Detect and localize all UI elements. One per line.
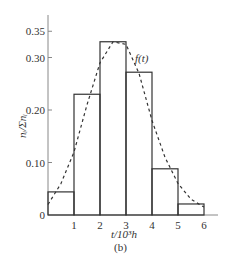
- histogram-chart: 00.100.200.300.35123456 f(t) t/10³h (b) …: [0, 0, 239, 262]
- y-tick-label: 0.20: [26, 104, 46, 116]
- x-tick-label: 1: [71, 219, 77, 231]
- y-axis-label: nᵢ/Σnᵢ: [16, 114, 28, 138]
- figure-caption: (b): [114, 241, 127, 254]
- histogram-bar: [74, 94, 100, 215]
- x-tick-label: 5: [175, 219, 181, 231]
- histogram-bar: [48, 192, 74, 215]
- x-tick-label: 6: [201, 219, 207, 231]
- y-tick-label: 0.30: [26, 52, 46, 64]
- histogram-bar: [126, 72, 152, 215]
- y-tick-label: 0.10: [26, 157, 46, 169]
- histogram-bar: [152, 169, 178, 215]
- x-tick-label: 4: [149, 219, 155, 231]
- x-tick-label: 2: [97, 219, 103, 231]
- x-axis-label: t/10³h: [111, 228, 137, 240]
- y-tick-label: 0: [40, 209, 46, 221]
- histogram-bars: [48, 42, 204, 215]
- tick-labels: 00.100.200.300.35123456: [26, 25, 208, 231]
- y-tick-label: 0.35: [26, 25, 46, 37]
- histogram-bar: [100, 42, 126, 215]
- curve-label: f(t): [135, 52, 149, 65]
- histogram-bar: [178, 204, 204, 215]
